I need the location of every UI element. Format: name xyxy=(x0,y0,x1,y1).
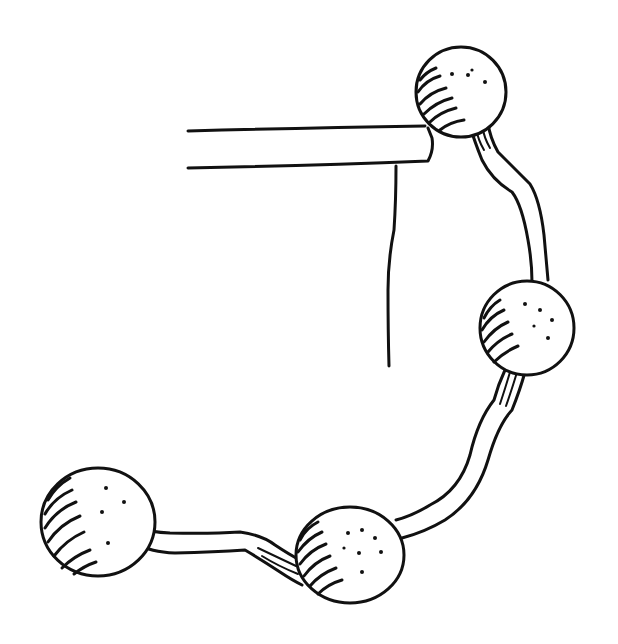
sketch-drawing xyxy=(0,0,618,644)
sphere-bottom-middle xyxy=(296,507,404,603)
sphere-middle-right xyxy=(480,281,574,375)
rod-middle-to-bottom xyxy=(396,370,525,538)
horizontal-bar xyxy=(188,126,433,168)
sphere-top xyxy=(416,47,506,137)
rod-bottom-to-left xyxy=(138,528,302,585)
vertical-line xyxy=(388,166,396,366)
rod-top-to-middle xyxy=(470,123,548,282)
sphere-bottom-left xyxy=(41,468,155,576)
sketch-canvas xyxy=(0,0,618,644)
